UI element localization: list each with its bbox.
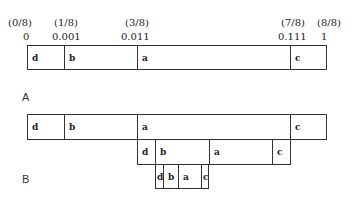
symbol-cell-a: a xyxy=(179,165,202,188)
panel-b-level-3: dbac xyxy=(155,164,209,189)
fraction-label: (8/8) xyxy=(317,18,341,28)
symbol-cell-d: d xyxy=(28,46,65,69)
panel-label-b: B xyxy=(22,173,29,185)
fraction-label: (7/8) xyxy=(281,18,305,28)
symbol-label: a xyxy=(183,172,189,182)
symbol-cell-d: d xyxy=(28,115,65,139)
symbol-cell-b: b xyxy=(164,165,179,188)
symbol-label: b xyxy=(168,172,174,182)
symbol-cell-a: a xyxy=(138,46,291,69)
binary-value-label: 1 xyxy=(321,32,327,42)
symbol-label: d xyxy=(32,53,38,63)
symbol-label: b xyxy=(69,122,75,132)
symbol-cell-b: b xyxy=(65,46,138,69)
symbol-label: a xyxy=(214,147,220,157)
panel-label-a: A xyxy=(22,91,29,103)
symbol-cell-c: c xyxy=(202,165,210,188)
binary-value-label: 0.111 xyxy=(278,32,307,42)
symbol-cell-c: c xyxy=(291,46,328,69)
symbol-label: a xyxy=(142,53,148,63)
fraction-label: (3/8) xyxy=(125,18,149,28)
panel-a-interval: dbac xyxy=(27,45,327,70)
symbol-cell-b: b xyxy=(65,115,138,139)
symbol-label: d xyxy=(157,172,163,182)
symbol-cell-a: a xyxy=(138,115,291,139)
symbol-label: b xyxy=(160,147,166,157)
panel-b-level-2: dbac xyxy=(137,139,291,165)
symbol-cell-a: a xyxy=(210,140,273,164)
fraction-label: (1/8) xyxy=(54,18,78,28)
symbol-label: b xyxy=(69,53,75,63)
symbol-label: c xyxy=(295,122,300,132)
symbol-label: d xyxy=(142,147,148,157)
symbol-label: d xyxy=(32,122,38,132)
symbol-label: c xyxy=(295,53,300,63)
symbol-label: c xyxy=(203,172,208,182)
panel-b-level-1: dbac xyxy=(27,114,327,140)
binary-value-label: 0.001 xyxy=(52,32,81,42)
symbol-label: c xyxy=(277,147,282,157)
fraction-label: (0/8) xyxy=(8,18,32,28)
symbol-cell-c: c xyxy=(273,140,292,164)
symbol-label: a xyxy=(142,122,148,132)
symbol-cell-b: b xyxy=(156,140,210,164)
binary-value-label: 0.011 xyxy=(121,32,150,42)
symbol-cell-d: d xyxy=(156,165,164,188)
symbol-cell-d: d xyxy=(138,140,156,164)
symbol-cell-c: c xyxy=(291,115,328,139)
binary-value-label: 0 xyxy=(23,32,29,42)
